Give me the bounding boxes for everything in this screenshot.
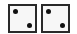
pip-icon xyxy=(46,9,51,14)
pip-icon xyxy=(60,23,65,28)
die-1[interactable] xyxy=(8,4,37,33)
pip-icon xyxy=(27,23,32,28)
pip-icon xyxy=(13,9,18,14)
die-2[interactable] xyxy=(41,4,70,33)
